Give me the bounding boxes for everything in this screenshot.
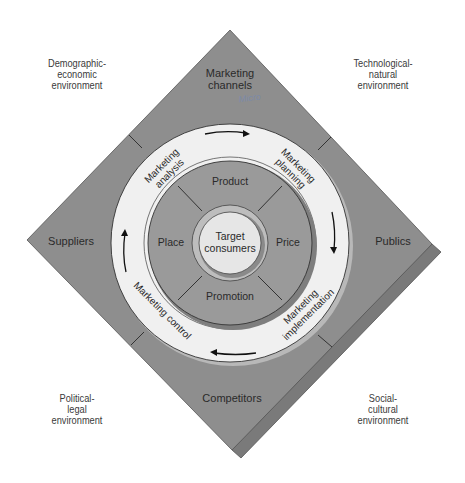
actor-competitors: Competitors xyxy=(202,392,262,404)
env-political-legal: Political- legal environment xyxy=(46,393,108,426)
env-social-cultural: Social- cultural environment xyxy=(350,393,417,426)
mix-product: Product xyxy=(212,175,248,187)
actor-suppliers: Suppliers xyxy=(48,235,94,247)
actor-publics: Publics xyxy=(375,235,411,247)
mix-place: Place xyxy=(158,236,184,248)
env-technological-natural: Technological- natural environment xyxy=(350,58,417,91)
env-demographic-economic: Demographic- economic environment xyxy=(46,58,108,91)
mix-price: Price xyxy=(276,236,300,248)
mix-promotion: Promotion xyxy=(206,290,254,302)
actor-marketing-channels: Marketingchannels xyxy=(206,67,254,91)
marketing-environment-diagram: Marketingchannels Micro Suppliers Public… xyxy=(0,0,465,483)
